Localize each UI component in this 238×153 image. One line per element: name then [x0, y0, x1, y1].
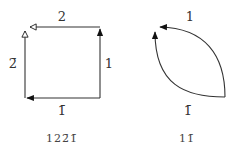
lens-top-label: 1	[186, 9, 194, 24]
edge-bottom-label: 1̄	[58, 103, 66, 118]
edge-top-label: 2	[58, 9, 66, 24]
edge-right-label: 1	[105, 56, 113, 71]
edge-left-label: 2̄	[9, 56, 17, 71]
edge-top-arc-arrow-icon	[160, 27, 225, 97]
lens-diagram: 1 1̄ 11̄	[155, 9, 225, 145]
square-caption: 122̄1̄	[46, 132, 78, 145]
edge-bottom-arc-arrow-icon	[155, 32, 225, 97]
diagram-canvas: 2 2̄ 1 1̄ 122̄1̄ 1 1̄ 11̄	[0, 0, 238, 153]
lens-caption: 11̄	[179, 132, 195, 145]
lens-bottom-label: 1̄	[184, 103, 192, 118]
square-diagram: 2 2̄ 1 1̄ 122̄1̄	[9, 9, 113, 145]
